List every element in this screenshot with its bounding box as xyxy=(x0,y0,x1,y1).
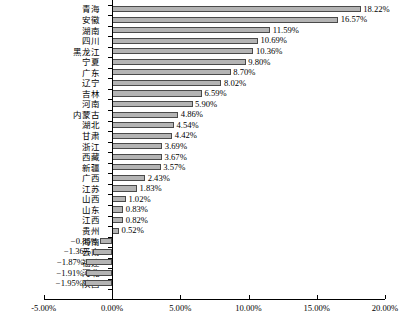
bar-value-label: 3.67% xyxy=(165,153,187,162)
bar xyxy=(112,175,145,181)
bar-value-label: 10.69% xyxy=(260,36,287,45)
bar xyxy=(112,228,119,234)
bar-value-label: 2.43% xyxy=(148,174,170,183)
bar-value-label: 11.59% xyxy=(273,26,299,35)
x-axis-tick xyxy=(44,295,45,299)
bar-value-label: 4.54% xyxy=(176,121,198,130)
bar xyxy=(112,217,123,223)
category-tick xyxy=(108,152,112,153)
bar-value-label: 8.02% xyxy=(224,79,246,88)
bar xyxy=(112,17,338,23)
category-tick xyxy=(108,194,112,195)
category-tick xyxy=(108,173,112,174)
x-axis-tick-label: 15.00% xyxy=(287,304,347,313)
bars-container: 18.22%16.57%11.59%10.69%10.36%9.80%8.70%… xyxy=(0,0,401,300)
bar xyxy=(100,238,112,244)
bar xyxy=(112,143,162,149)
category-tick xyxy=(108,226,112,227)
category-tick xyxy=(108,15,112,16)
bar-value-label: 10.36% xyxy=(256,47,283,56)
bar-value-label: 4.86% xyxy=(181,110,203,119)
x-axis-tick-label: -5.00% xyxy=(14,304,74,313)
bar-value-label: 3.69% xyxy=(165,142,187,151)
bar-value-label: 3.57% xyxy=(163,163,185,172)
x-axis-tick xyxy=(317,295,318,299)
category-tick xyxy=(108,121,112,122)
bar xyxy=(86,259,112,265)
category-tick xyxy=(108,57,112,58)
x-axis-tick xyxy=(180,295,181,299)
bar-value-label: 1.02% xyxy=(128,195,150,204)
category-tick xyxy=(108,5,112,6)
bar xyxy=(112,27,270,33)
category-tick xyxy=(108,26,112,27)
bar-value-label: 4.42% xyxy=(175,131,197,140)
bar xyxy=(112,133,172,139)
bar-value-label: 5.90% xyxy=(195,100,217,109)
bar xyxy=(112,90,202,96)
bar xyxy=(112,80,221,86)
bar-value-label: −1.95% xyxy=(56,279,83,288)
bar xyxy=(112,59,246,65)
category-tick xyxy=(108,216,112,217)
bar-value-label: 9.80% xyxy=(248,58,270,67)
bar-value-label: 0.52% xyxy=(122,226,144,235)
zero-axis-line xyxy=(112,0,113,299)
plot-area: 青海安徽湖南四川黑龙江宁夏广东辽宁吉林河南内蒙古湖北甘肃浙江西藏新疆广西江苏山西… xyxy=(0,0,401,333)
bar xyxy=(112,122,174,128)
category-tick xyxy=(108,89,112,90)
bar xyxy=(112,38,258,44)
category-tick xyxy=(108,289,112,290)
bar-value-label: −1.36% xyxy=(64,247,91,256)
bar-value-label: −1.91% xyxy=(56,269,83,278)
category-tick xyxy=(108,99,112,100)
bar xyxy=(85,280,112,286)
bar-value-label: 1.83% xyxy=(139,184,161,193)
bar xyxy=(112,101,193,107)
horizontal-bar-chart: 青海安徽湖南四川黑龙江宁夏广东辽宁吉林河南内蒙古湖北甘肃浙江西藏新疆广西江苏山西… xyxy=(0,0,401,333)
bar-value-label: 8.70% xyxy=(233,68,255,77)
bar-value-label: 0.83% xyxy=(126,205,148,214)
bar-value-label: 6.59% xyxy=(204,89,226,98)
x-axis-tick-label: 10.00% xyxy=(219,304,279,313)
bar-value-label: 16.57% xyxy=(341,15,368,24)
category-tick xyxy=(108,258,112,259)
category-tick xyxy=(108,142,112,143)
x-axis-tick-label: 20.00% xyxy=(355,304,401,313)
category-tick xyxy=(108,237,112,238)
category-tick xyxy=(108,110,112,111)
bar-value-label: −0.85% xyxy=(71,237,98,246)
category-tick xyxy=(108,163,112,164)
category-tick xyxy=(108,36,112,37)
category-tick xyxy=(108,68,112,69)
x-axis-tick xyxy=(249,295,250,299)
category-tick xyxy=(108,47,112,48)
bar xyxy=(86,270,112,276)
x-axis-tick xyxy=(385,295,386,299)
x-axis-line xyxy=(44,299,385,300)
category-tick xyxy=(108,184,112,185)
x-axis-tick-label: 0.00% xyxy=(82,304,142,313)
bar xyxy=(112,185,137,191)
bar xyxy=(112,69,231,75)
bar-value-label: −1.87% xyxy=(57,258,84,267)
bar xyxy=(112,6,361,12)
bar xyxy=(112,48,253,54)
bar xyxy=(112,164,161,170)
bar xyxy=(112,154,162,160)
bar xyxy=(93,249,112,255)
category-tick xyxy=(108,131,112,132)
category-tick xyxy=(108,268,112,269)
category-tick xyxy=(108,247,112,248)
bar xyxy=(112,206,123,212)
bar-value-label: 0.82% xyxy=(126,216,148,225)
bar xyxy=(112,112,178,118)
bar xyxy=(112,196,126,202)
x-axis-tick-label: 5.00% xyxy=(150,304,210,313)
bar-value-label: 18.22% xyxy=(363,5,390,14)
category-tick xyxy=(108,78,112,79)
category-tick xyxy=(108,279,112,280)
category-tick xyxy=(108,205,112,206)
